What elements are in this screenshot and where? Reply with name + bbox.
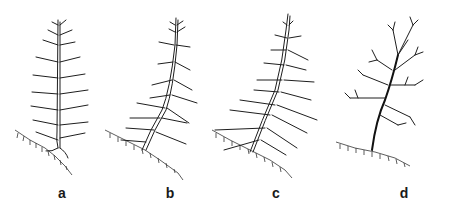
panel-label-a: a bbox=[52, 185, 72, 201]
tree-d bbox=[336, 17, 423, 167]
tree-b bbox=[105, 18, 197, 180]
panel-label-c: c bbox=[266, 185, 286, 201]
panel-label-b: b bbox=[160, 185, 180, 201]
illustration bbox=[0, 0, 454, 211]
tree-a bbox=[15, 20, 88, 175]
tree-c bbox=[212, 14, 317, 178]
panel-label-d: d bbox=[394, 185, 414, 201]
